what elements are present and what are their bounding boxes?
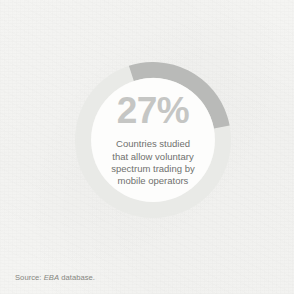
source-note-prefix: Source: [15, 273, 44, 282]
source-note-suffix: database. [59, 273, 95, 282]
donut-chart [75, 62, 231, 218]
source-note: Source: EBA database. [15, 273, 95, 283]
donut-chart-svg [75, 62, 231, 218]
figure-card: 27% Countries studied that allow volunta… [0, 0, 294, 294]
donut-hole [91, 78, 215, 202]
source-note-name: EBA [44, 273, 59, 282]
